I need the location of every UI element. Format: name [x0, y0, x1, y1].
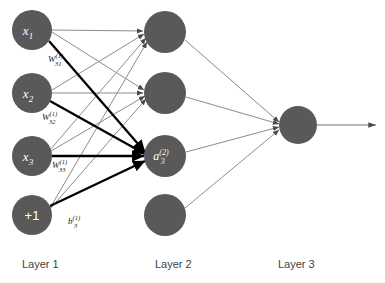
- edges-layer2-to-layer3: [185, 40, 279, 208]
- edge-bias1-a2: [50, 99, 146, 209]
- node-a1[interactable]: [144, 11, 186, 53]
- neural-network-diagram: x1 x2 x3 +1 a(2)3 W(1)31 W(1)32 W(1)33 b…: [0, 0, 385, 283]
- weight-label-w31: W(1)31: [48, 52, 63, 67]
- node-bias-layer1-label: +1: [25, 208, 40, 223]
- node-a4-bias[interactable]: [144, 194, 186, 236]
- bias-label-b3: b(1)3: [68, 214, 80, 229]
- edge-a4-out: [185, 130, 279, 208]
- layer-captions: Layer 1 Layer 2 Layer 3: [22, 258, 315, 270]
- weight-label-w33: W(1)33: [52, 158, 67, 173]
- layer-3-nodes: [279, 106, 317, 144]
- layer-2-caption: Layer 2: [155, 258, 192, 270]
- edge-x1-a1: [52, 30, 143, 31]
- edge-x1-a3-bold: [49, 41, 145, 152]
- edge-x3-a1: [50, 38, 146, 150]
- node-a2[interactable]: [144, 72, 186, 114]
- edges-highlighted-to-a3: [49, 41, 145, 206]
- layer-2-nodes: a(2)3: [144, 11, 186, 236]
- edge-a1-out: [185, 40, 279, 122]
- edge-a3-out: [186, 127, 279, 152]
- edge-a2-out: [186, 97, 279, 124]
- edge-x2-a3-bold: [50, 101, 145, 154]
- layer-3-caption: Layer 3: [278, 258, 315, 270]
- weight-label-w32: W(1)32: [42, 110, 57, 125]
- node-output[interactable]: [279, 106, 317, 144]
- layer-1-caption: Layer 1: [22, 258, 59, 270]
- layer-1-nodes: x1 x2 x3 +1: [12, 10, 52, 235]
- edge-x3-a2: [51, 96, 145, 151]
